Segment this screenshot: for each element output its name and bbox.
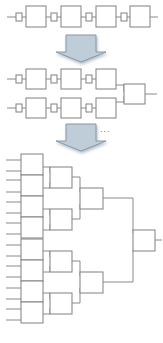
process-node <box>61 98 81 118</box>
stage-1-linear-chain <box>7 6 158 27</box>
root-node <box>133 230 155 251</box>
merge-link <box>72 261 80 276</box>
diagram-canvas: ... <box>0 0 163 343</box>
connector-stub <box>86 13 92 21</box>
connector-stub <box>86 75 92 83</box>
connector-stub <box>51 75 57 83</box>
connector-stub <box>16 104 22 112</box>
process-node <box>96 6 116 27</box>
connector-stub <box>16 75 22 83</box>
merge-link <box>43 167 50 173</box>
merge-link <box>43 308 50 314</box>
merge-node-l3 <box>80 272 103 293</box>
process-node <box>61 69 81 89</box>
merge-link <box>116 96 124 102</box>
process-node <box>26 6 46 27</box>
leaf-node <box>21 154 43 175</box>
merge-link <box>116 85 124 92</box>
down-arrow-icon <box>56 35 106 62</box>
merge-link <box>43 266 50 272</box>
merge-link <box>72 204 80 219</box>
merge-link <box>72 177 80 192</box>
merge-link <box>43 182 50 188</box>
process-node <box>96 98 116 118</box>
merge-link <box>103 198 133 233</box>
merge-link <box>103 250 133 282</box>
leaf-node <box>21 281 43 302</box>
leaf-node <box>21 217 43 238</box>
connector-stub <box>86 104 92 112</box>
merge-link <box>72 288 80 303</box>
process-node <box>26 98 46 118</box>
merge-link <box>43 209 50 215</box>
leaf-node <box>21 260 43 281</box>
merge-node-l2 <box>50 167 72 188</box>
leaf-node <box>21 302 43 323</box>
process-node <box>96 69 116 89</box>
merge-node-l3 <box>80 188 103 209</box>
merge-node <box>124 84 145 104</box>
merge-link <box>43 251 50 257</box>
merge-node-l2 <box>50 209 72 230</box>
merge-link <box>43 293 50 299</box>
stage-3-binary-reduction-tree <box>6 154 162 323</box>
stage-2-two-chains-merge <box>7 69 157 118</box>
process-node <box>130 6 150 27</box>
connector-stub <box>16 13 22 21</box>
process-node <box>26 69 46 89</box>
process-node <box>61 6 81 27</box>
leaf-node <box>21 196 43 217</box>
ellipsis-annotation: ... <box>100 125 111 134</box>
merge-node-l2 <box>50 293 72 314</box>
connector-stub <box>51 104 57 112</box>
leaf-node <box>21 239 43 260</box>
transition-arrow-2 <box>56 124 106 151</box>
transition-arrow-1 <box>56 35 106 62</box>
diagram-svg <box>0 0 163 343</box>
merge-link <box>43 224 50 230</box>
leaf-node <box>21 175 43 196</box>
merge-node-l2 <box>50 251 72 272</box>
down-arrow-icon <box>56 124 106 151</box>
connector-stub <box>121 13 127 21</box>
connector-stub <box>51 13 57 21</box>
